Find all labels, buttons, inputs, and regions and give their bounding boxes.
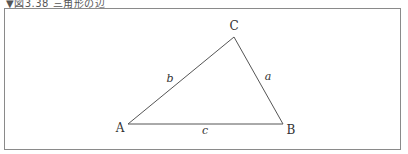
vertex-label-c: C	[229, 19, 238, 33]
side-label-b: b	[166, 72, 173, 85]
side-label-a: a	[265, 70, 272, 83]
triangle-diagram: A B C a b c	[0, 0, 408, 154]
vertex-label-b: B	[287, 123, 296, 137]
vertex-label-a: A	[115, 121, 125, 135]
side-label-c: c	[202, 124, 208, 137]
triangle-shape	[128, 37, 283, 124]
